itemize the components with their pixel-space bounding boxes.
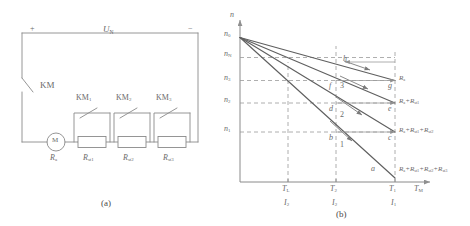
y-tick-label-n0: n0 [224,30,230,38]
resistance-label-curve-4: Ra [399,75,405,82]
point-label-h: h [343,55,347,63]
y-axis-name-label: n [230,11,234,19]
figure-panel-b: n n0 nN n3 n2 n1 TL T2 T1 TM I2 I2 I1 a … [0,0,470,226]
point-label-c: c [388,134,392,142]
x-tick-current-label-I2b: I2 [332,199,337,207]
x-axis-name-label: TM [414,185,423,193]
x-tick-label-TL: TL [282,185,289,193]
point-label-d: d [329,105,333,113]
curve-number-2: 2 [340,111,344,119]
y-tick-label-n3: n3 [224,74,230,82]
point-label-e: e [388,105,392,113]
resistance-label-curve-2: Ra+Rst1+Rst2 [399,127,433,134]
characteristic-plot [0,0,470,226]
point-label-g: g [388,82,392,90]
resistance-label-curve-1: Ra+Rst1+Rst2+Rst3 [399,166,447,173]
x-tick-label-T2: T2 [330,185,337,193]
curve-2-line [240,38,395,133]
resistance-label-curve-3: Ra+Rst1 [399,98,419,105]
x-tick-current-label-I1: I1 [391,199,396,207]
accel-arrow-curve-1 [330,121,352,141]
point-label-a: a [371,165,375,173]
curve-3-line [240,38,395,104]
point-label-b: b [329,134,333,142]
y-tick-label-n1: n1 [224,125,230,133]
curve-number-3: 3 [340,82,344,90]
accel-arrow-curve-3 [340,76,368,89]
point-label-f: f [329,82,331,90]
x-tick-label-T1: T1 [389,185,396,193]
panel-b-caption: (b) [336,210,347,219]
y-tick-label-n2: n2 [224,96,230,104]
curve-number-1: 1 [340,141,344,149]
x-tick-current-label-I2a: I2 [284,199,289,207]
y-tick-label-nN: nN [224,50,232,58]
